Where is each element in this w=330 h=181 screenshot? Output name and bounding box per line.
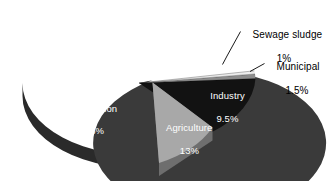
sewage-sludge-label-name: Sewage sludge xyxy=(253,29,323,40)
municipal-label-value: 1.5% xyxy=(265,85,329,97)
sewage-sludge-leader-line xyxy=(227,32,241,57)
callout-label-municipal: Municipal 1.5% xyxy=(265,49,329,121)
municipal-label-name: Municipal xyxy=(277,61,320,72)
pie-chart-figure: Mining and oil and gas production 75% In… xyxy=(0,0,330,181)
sewage-sludge-leader-line-lower xyxy=(223,56,228,65)
